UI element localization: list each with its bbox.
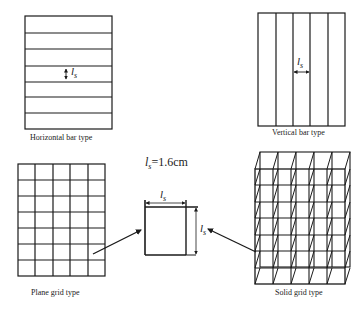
solid-grid-caption: Solid grid type <box>275 288 323 297</box>
horizontal-spacing-symbol: ls <box>71 65 77 80</box>
arrow-plane-to-cell <box>93 230 141 254</box>
cell-width-label: ls <box>160 188 166 203</box>
cell-height-label: ls <box>200 222 206 237</box>
unit-cell-detail <box>145 200 198 255</box>
horizontal-bar-diagram <box>25 16 112 129</box>
horizontal-bar-caption: Horizontal bar type <box>30 133 92 142</box>
vertical-bar-caption: Vertical bar type <box>272 128 325 137</box>
arrow-solid-to-cell <box>208 229 256 252</box>
spacing-formula: ls=1.6cm <box>145 155 188 171</box>
vertical-spacing-symbol: ls <box>297 55 303 70</box>
plane-grid-caption: Plane grid type <box>31 288 79 297</box>
plane-grid-diagram <box>18 164 105 276</box>
solid-grid-diagram <box>255 152 350 284</box>
